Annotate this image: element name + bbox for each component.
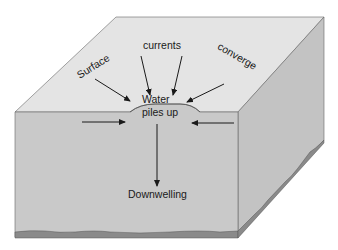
label-water: Water <box>142 93 170 105</box>
label-downwelling: Downwelling <box>128 188 187 200</box>
downwelling-diagram: Surface currents converge Water piles up… <box>0 0 338 250</box>
label-currents: currents <box>143 39 181 51</box>
label-piles-up: piles up <box>142 106 178 118</box>
ocean-front-face <box>15 104 238 237</box>
